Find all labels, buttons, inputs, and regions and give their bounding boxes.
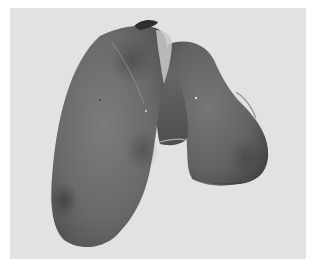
photo-frame <box>0 0 310 266</box>
liver-photo <box>0 0 310 266</box>
